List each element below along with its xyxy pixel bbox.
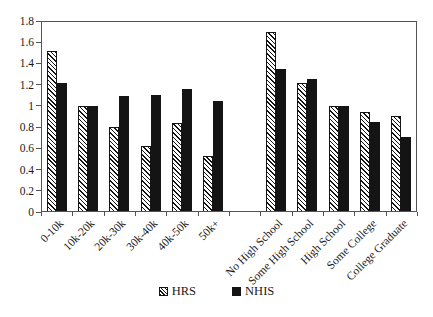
bar-nhis xyxy=(213,101,223,212)
y-tick-label: 0.8 xyxy=(0,121,34,133)
bar-chart: HRS NHIS 00.20.40.60.811.21.41.61.80-10k… xyxy=(0,0,433,317)
y-tick-mark xyxy=(36,42,41,43)
bar-hrs xyxy=(172,123,182,212)
x-tick-mark xyxy=(104,212,105,216)
x-tick-mark xyxy=(198,212,199,216)
bar-hrs xyxy=(266,32,276,212)
x-tick-mark xyxy=(166,212,167,216)
y-tick-mark xyxy=(36,63,41,64)
bar-nhis xyxy=(182,89,192,212)
y-tick-mark xyxy=(36,169,41,170)
y-tick-mark xyxy=(36,190,41,191)
y-tick-label: 1.8 xyxy=(0,15,34,27)
legend-label-hrs: HRS xyxy=(172,284,196,299)
y-tick-mark xyxy=(36,21,41,22)
bar-hrs xyxy=(360,112,370,212)
bar-nhis xyxy=(401,137,411,212)
bar-nhis xyxy=(119,96,129,212)
bar-hrs xyxy=(297,83,307,212)
x-tick-mark xyxy=(135,212,136,216)
y-tick-label: 0 xyxy=(0,206,34,218)
y-tick-mark xyxy=(36,105,41,106)
x-tick-mark xyxy=(292,212,293,216)
bar-nhis xyxy=(276,69,286,212)
y-tick-label: 1.4 xyxy=(0,57,34,69)
hrs-hatch-swatch-icon xyxy=(159,287,168,296)
bar-nhis xyxy=(57,83,67,212)
bar-nhis xyxy=(88,106,98,212)
x-tick-mark xyxy=(417,212,418,216)
plot-area xyxy=(41,21,417,212)
x-tick-mark xyxy=(229,212,230,216)
y-tick-label: 1 xyxy=(0,100,34,112)
bar-hrs xyxy=(203,156,213,212)
x-tick-mark xyxy=(323,212,324,216)
bar-hrs xyxy=(109,127,119,212)
y-tick-mark xyxy=(36,148,41,149)
bar-nhis xyxy=(339,106,349,212)
x-tick-mark xyxy=(41,212,42,216)
bar-hrs xyxy=(47,51,57,212)
y-tick-label: 1.2 xyxy=(0,79,34,91)
legend-item-hrs: HRS xyxy=(159,284,196,299)
x-tick-mark xyxy=(260,212,261,216)
y-tick-label: 0.4 xyxy=(0,164,34,176)
bar-hrs xyxy=(391,116,401,212)
x-tick-mark xyxy=(386,212,387,216)
y-tick-label: 0.2 xyxy=(0,185,34,197)
bar-hrs xyxy=(78,106,88,212)
y-tick-label: 1.6 xyxy=(0,36,34,48)
bar-nhis xyxy=(370,122,380,212)
bar-nhis xyxy=(151,95,161,212)
bar-nhis xyxy=(307,79,317,212)
bar-hrs xyxy=(329,106,339,212)
x-tick-mark xyxy=(354,212,355,216)
x-tick-mark xyxy=(72,212,73,216)
y-tick-mark xyxy=(36,127,41,128)
bar-hrs xyxy=(141,146,151,212)
y-tick-mark xyxy=(36,84,41,85)
y-tick-label: 0.6 xyxy=(0,142,34,154)
